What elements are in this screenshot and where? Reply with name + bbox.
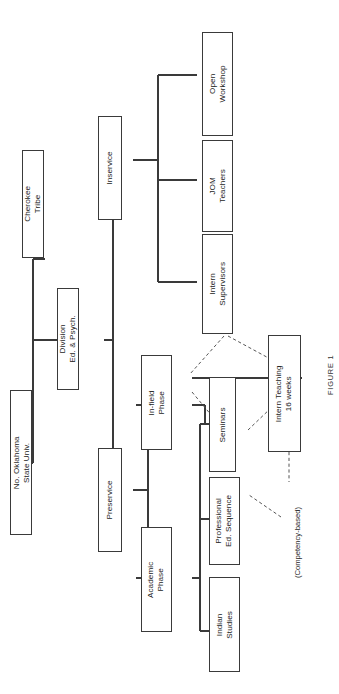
node-open-workshop[interactable]: Open Workshop (202, 32, 233, 136)
node-seminars[interactable]: Seminars (209, 377, 236, 472)
node-inservice[interactable]: Inservice (98, 116, 122, 220)
node-intern-supervisors[interactable]: Intern Supervisors (202, 234, 233, 334)
figure-diagram: No. Oklahoma State Univ. Cherokee Tribe … (0, 0, 339, 694)
node-label: Open Workshop (208, 65, 228, 102)
node-professional-ed-sequence[interactable]: Professional Ed. Sequence (209, 477, 240, 565)
node-label: Professional Ed. Sequence (215, 495, 235, 547)
node-label: Intern Supervisors (208, 262, 228, 306)
edge-dash-internsup-infield (190, 336, 224, 374)
node-label: Inservice (105, 151, 115, 184)
node-label: Academic Phase (147, 561, 167, 597)
node-academic-phase[interactable]: Academic Phase (141, 527, 172, 632)
competency-based-annotation: (Competency-based) (293, 507, 302, 578)
figure-caption: FIGURE 1 (326, 355, 335, 395)
node-label: Intern Teaching 16 weeks (275, 365, 295, 422)
node-cherokee-tribe[interactable]: Cherokee Tribe (22, 150, 44, 258)
node-label: Division Ed. & Psych. (58, 315, 78, 363)
node-label: Preservice (105, 480, 115, 519)
node-label: Cherokee Tribe (23, 186, 43, 222)
node-label: Seminars (218, 407, 228, 442)
node-label: Indian Studies (215, 611, 235, 639)
node-label: No. Oklahoma State Univ. (11, 436, 31, 489)
node-indian-studies[interactable]: Indian Studies (209, 577, 240, 672)
node-preservice[interactable]: Preservice (98, 448, 122, 552)
edge-dash-competency-profed (249, 495, 281, 517)
node-no-oklahoma-state-univ[interactable]: No. Oklahoma State Univ. (10, 390, 32, 535)
node-in-field-phase[interactable]: In-field Phase (141, 355, 172, 450)
node-label: In-field Phase (147, 390, 167, 415)
node-label: JOM Teachers (208, 169, 228, 203)
node-intern-teaching[interactable]: Intern Teaching 16 weeks (268, 335, 301, 452)
node-jom-teachers[interactable]: JOM Teachers (202, 140, 233, 232)
node-division-ed-psych[interactable]: Division Ed. & Psych. (57, 288, 79, 390)
